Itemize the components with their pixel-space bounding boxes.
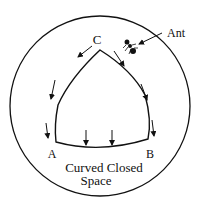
curved-space-diagram: C Ant A B Curved Closed Space bbox=[0, 0, 200, 203]
vertex-a-label: A bbox=[48, 147, 57, 161]
vertex-c-label: C bbox=[93, 32, 102, 47]
ant-icon bbox=[123, 39, 138, 54]
curved-triangle bbox=[55, 50, 149, 147]
vertex-b-label: B bbox=[146, 147, 154, 161]
caption-line-2: Space bbox=[80, 173, 111, 188]
ant-label: Ant bbox=[167, 26, 186, 40]
